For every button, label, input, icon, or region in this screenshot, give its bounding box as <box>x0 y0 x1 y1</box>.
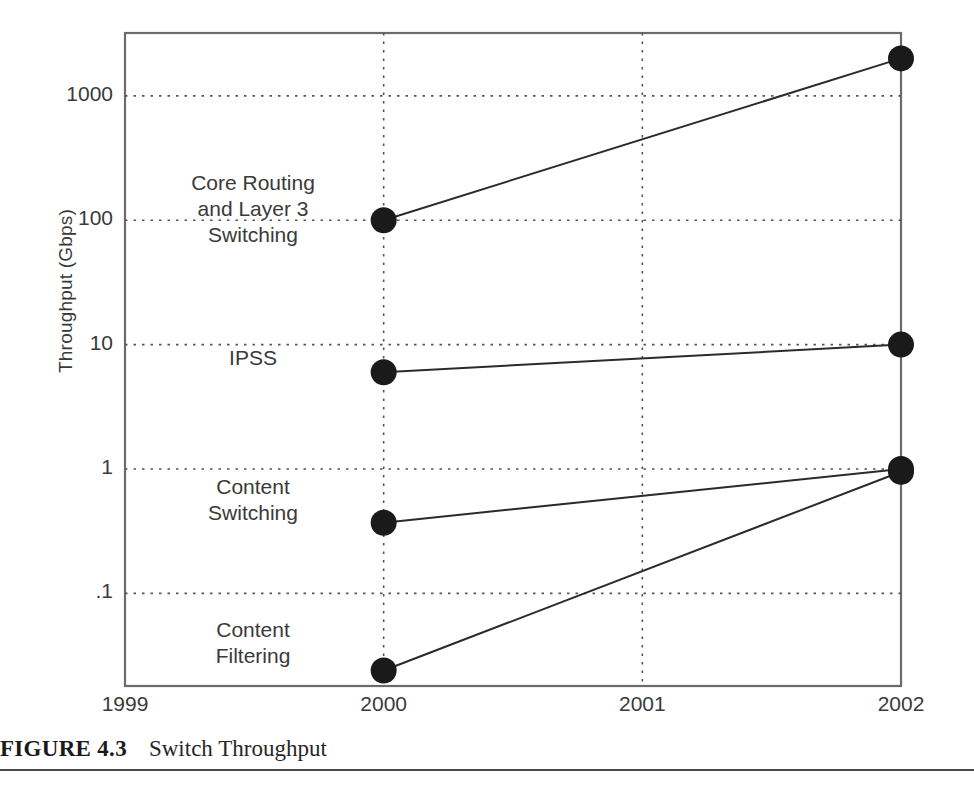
series-label-3: ContentSwitching <box>148 474 358 526</box>
caption-divider <box>0 769 974 771</box>
caption-label: FIGURE 4.3 <box>0 736 127 761</box>
data-point-marker <box>371 359 397 385</box>
x-tick-label: 2002 <box>841 692 961 716</box>
figure-caption: FIGURE 4.3Switch Throughput <box>0 735 974 771</box>
data-point-marker <box>371 207 397 233</box>
figure-4-3: 1000100101.1 Throughput (Gbps) Core Rout… <box>0 0 974 797</box>
data-point-marker <box>888 45 914 71</box>
series-label-line: Switching <box>148 500 358 526</box>
caption-text-row: FIGURE 4.3Switch Throughput <box>0 735 974 769</box>
series-label-line: Content <box>148 617 358 643</box>
series-label-2: IPSS <box>148 345 358 371</box>
series-label-line: Switching <box>148 222 358 248</box>
x-tick-label: 2000 <box>324 692 444 716</box>
data-point-marker <box>888 459 914 485</box>
x-tick-label: 1999 <box>65 692 185 716</box>
y-axis-title: Throughput (Gbps) <box>55 196 77 386</box>
series-label-line: and Layer 3 <box>148 196 358 222</box>
series-label-line: IPSS <box>148 345 358 371</box>
data-point-marker <box>888 332 914 358</box>
series-label-line: Filtering <box>148 643 358 669</box>
caption-title: Switch Throughput <box>127 736 327 761</box>
data-point-marker <box>371 657 397 683</box>
y-tick-label-text: 1000 <box>66 82 113 106</box>
series-label-1: Core Routingand Layer 3Switching <box>148 170 358 248</box>
switch-throughput-line-chart <box>0 0 974 710</box>
data-point-marker <box>371 510 397 536</box>
series-label-line: Core Routing <box>148 170 358 196</box>
x-tick-label: 2001 <box>582 692 702 716</box>
series-label-line: Content <box>148 474 358 500</box>
x-axis-tick-labels: 1999200020012002 <box>0 692 974 732</box>
y-tick-label-text: 100 <box>78 206 113 230</box>
series-label-4: ContentFiltering <box>148 617 358 669</box>
y-tick-label-text: .1 <box>95 579 113 603</box>
chart-plot-area: 1000100101.1 Throughput (Gbps) Core Rout… <box>0 0 974 710</box>
y-tick-label-text: 1 <box>101 455 113 479</box>
y-tick-label-text: 10 <box>90 331 113 355</box>
